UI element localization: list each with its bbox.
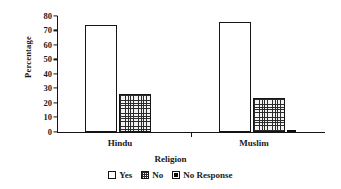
y-axis-tick-mark <box>54 117 58 118</box>
legend-label: No <box>152 170 163 180</box>
x-axis-tick-mark <box>191 133 192 137</box>
y-axis-tick-mark <box>54 88 58 89</box>
y-axis-tick-mark <box>54 102 58 103</box>
bar-muslim-no-response <box>287 130 296 132</box>
legend-label: No Response <box>183 170 232 180</box>
bar-hindu-no <box>119 94 151 132</box>
x-axis-category-hindu: Hindu <box>108 138 133 148</box>
bar-muslim-yes <box>219 22 251 132</box>
y-axis-tick-mark <box>54 73 58 74</box>
y-axis-tick-mark <box>54 44 58 45</box>
y-axis-tick-label: 70 <box>26 25 57 35</box>
bar-hindu-yes <box>85 25 117 132</box>
y-axis-tick-mark <box>54 131 58 132</box>
legend-swatch-solid-icon <box>172 171 180 179</box>
legend-label: Yes <box>119 170 132 180</box>
y-axis-tick-label: 60 <box>26 40 57 50</box>
y-axis-tick-label: 80 <box>26 11 57 21</box>
y-axis-tick-label: 50 <box>26 54 57 64</box>
bar-muslim-no <box>253 98 285 131</box>
y-axis-tick-label: 40 <box>26 69 57 79</box>
y-axis-tick-mark <box>54 59 58 60</box>
x-axis-title: Religion <box>0 154 341 164</box>
y-axis-tick-mark <box>54 30 58 31</box>
y-axis-tick-mark <box>54 15 58 16</box>
legend-item-yes[interactable]: Yes <box>108 170 132 180</box>
y-axis-tick-label: 0 <box>26 127 57 137</box>
y-axis-tick-label: 30 <box>26 83 57 93</box>
legend-swatch-empty-icon <box>108 171 116 179</box>
bar-chart: Percentage 01020304050607080 HinduMuslim… <box>0 0 341 189</box>
y-axis-tick-label: 20 <box>26 98 57 108</box>
legend-item-no[interactable]: No <box>141 170 163 180</box>
x-axis-category-muslim: Muslim <box>239 138 269 148</box>
legend-swatch-crosshatch-icon <box>141 171 149 179</box>
chart-legend: YesNoNo Response <box>0 170 341 180</box>
plot-area: 01020304050607080 <box>57 16 325 133</box>
y-axis-tick-label: 10 <box>26 112 57 122</box>
y-axis-line <box>57 16 58 133</box>
legend-item-no-response[interactable]: No Response <box>172 170 232 180</box>
